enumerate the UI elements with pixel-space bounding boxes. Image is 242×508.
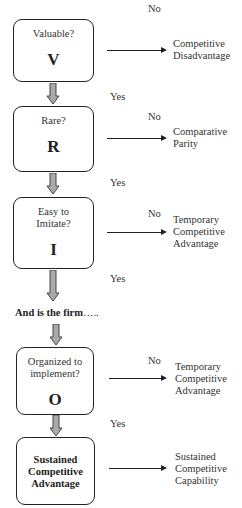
node-valuable: Valuable? V: [13, 19, 94, 82]
node-organized: Organized to implement? O: [16, 347, 94, 415]
letter-r: R: [14, 137, 93, 157]
node-sustained-competitive-advantage: Sustained Competitive Advantage: [16, 437, 95, 505]
no-label-rare: No: [148, 111, 161, 123]
node-rare: Rare? R: [13, 106, 94, 172]
question-organized: Organized to implement?: [17, 356, 93, 380]
yes-label-organized: Yes: [110, 418, 125, 430]
clipped-header-text: · · ·: [95, 0, 112, 3]
yes-label-valuable: Yes: [110, 91, 125, 103]
down-arrow-long-icon: [46, 270, 60, 302]
down-arrow-icon: [46, 173, 60, 195]
arrowhead-icon: [161, 465, 167, 471]
no-arrow-line-organized: [109, 378, 161, 379]
outcome-temporary-competitive-advantage: Temporary Competitive Advantage: [173, 214, 225, 250]
letter-o: O: [17, 390, 93, 410]
arrowhead-icon: [161, 375, 167, 381]
outcome-temporary-competitive-advantage-2: Temporary Competitive Advantage: [175, 361, 227, 397]
question-imitate: Easy to Imitate?: [14, 206, 93, 230]
yes-label-imitate: Yes: [110, 273, 125, 285]
no-arrow-line-imitate: [107, 232, 161, 233]
question-rare: Rare?: [14, 115, 93, 127]
no-arrow-line-rare: [107, 138, 161, 139]
no-label-valuable: No: [148, 3, 161, 15]
outcome-sustained-competitive-capability: Sustained Competitive Capability: [175, 451, 227, 487]
down-arrow-icon: [49, 415, 63, 437]
outcome-competitive-disadvantage: Competitive Disadvantage: [173, 38, 230, 62]
arrowhead-icon: [161, 47, 167, 53]
outcome-comparative-parity: Comparative Parity: [173, 126, 227, 150]
node-imitate: Easy to Imitate? I: [13, 197, 94, 269]
yes-label-rare: Yes: [110, 177, 125, 189]
arrowhead-icon: [161, 135, 167, 141]
question-valuable: Valuable?: [14, 28, 93, 40]
letter-i: I: [14, 240, 93, 260]
arrowhead-icon: [161, 229, 167, 235]
letter-v: V: [14, 50, 93, 70]
down-arrow-icon: [46, 83, 60, 105]
connector-text: And is the firm…..: [15, 307, 99, 318]
no-label-imitate: No: [148, 208, 161, 220]
final-label: Sustained Competitive Advantage: [17, 454, 94, 490]
no-label-organized: No: [148, 355, 161, 367]
no-arrow-line-valuable: [107, 50, 161, 51]
down-arrow-icon: [49, 324, 63, 346]
outcome-arrow-line-final: [109, 468, 161, 469]
